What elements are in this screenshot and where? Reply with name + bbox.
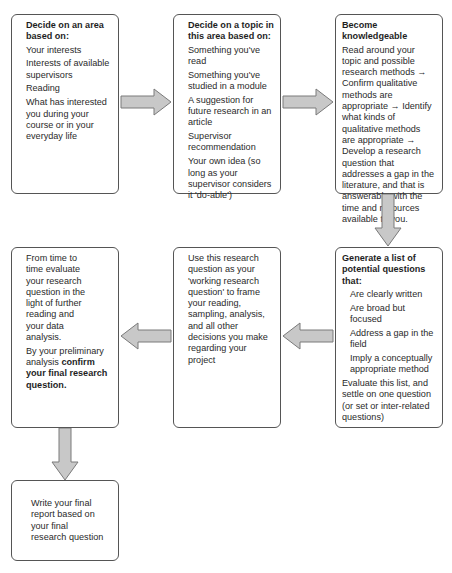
step-confirm: By your preliminary analysis confirm you… <box>26 346 116 391</box>
list-item: What has interested you during your cour… <box>26 97 112 142</box>
list-item: Your own idea (so long as your superviso… <box>188 156 274 201</box>
list-item: Supervisor recommendation <box>188 131 274 154</box>
arrow-left-icon <box>120 322 172 350</box>
step-evaluate-question: From time to time evaluate your research… <box>11 247 119 428</box>
step-body: Use this research question as your 'work… <box>188 253 274 366</box>
list-item: Imply a conceptually appropriate method <box>342 353 436 376</box>
step-decide-area: Decide on an area based on: Your interes… <box>11 14 119 194</box>
list-item: Something you've studied in a module <box>188 70 274 93</box>
list-item: Address a gap in the field <box>342 328 436 351</box>
step-decide-topic: Decide on a topic in this area based on:… <box>173 14 281 194</box>
list-item: Something you've read <box>188 45 274 68</box>
step-body: From time to time evaluate your research… <box>26 253 116 343</box>
step-body: Write your final report based on your fi… <box>31 498 104 543</box>
list-item: Your interests <box>26 45 112 56</box>
list-item: Are broad but focused <box>342 303 436 326</box>
step-title: Decide on an area based on: <box>26 20 112 43</box>
arrow-down-icon <box>374 194 402 247</box>
arrow-left-icon <box>282 322 334 350</box>
list-item: Reading <box>26 83 112 94</box>
list-item: Are clearly written <box>342 289 436 300</box>
list-item: A suggestion for future research in an a… <box>188 95 274 129</box>
step-title: Generate a list of potential questions t… <box>342 253 436 287</box>
step-generate-questions: Generate a list of potential questions t… <box>335 247 443 428</box>
arrow-down-icon <box>51 428 79 481</box>
step-write-report: Write your final report based on your fi… <box>11 480 119 561</box>
list-item: Interests of available supervisors <box>26 58 112 81</box>
arrow-right-icon <box>120 88 172 116</box>
step-title: Decide on a topic in this area based on: <box>188 20 274 43</box>
step-working-question: Use this research question as your 'work… <box>173 247 281 428</box>
step-footer: Evaluate this list, and settle on one qu… <box>342 378 436 423</box>
step-title: Become knowledgeable <box>342 20 436 43</box>
step-become-knowledgeable: Become knowledgeable Read around your to… <box>335 14 443 194</box>
arrow-right-icon <box>282 88 334 116</box>
